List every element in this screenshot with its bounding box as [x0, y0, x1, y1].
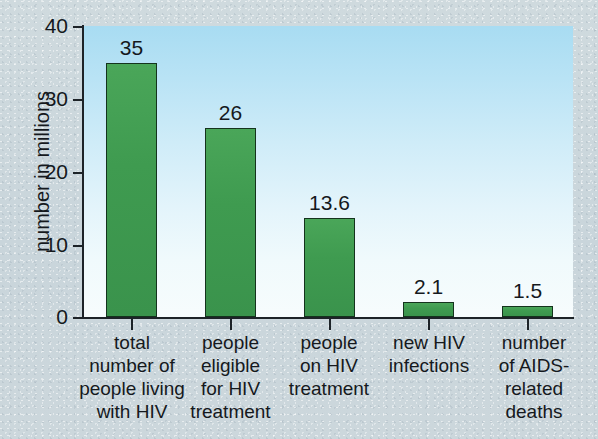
y-tick-10: [73, 245, 83, 247]
bar-value-5: 1.5: [502, 279, 553, 303]
category-label-2-line-4: treatment: [162, 400, 299, 423]
category-label-4-line-1: new HIV: [372, 331, 486, 354]
bar-value-3: 13.6: [296, 191, 363, 215]
y-tick-label-40: 40: [28, 14, 68, 38]
category-label-5-line-4: deaths: [479, 400, 589, 423]
x-tick-1: [131, 319, 133, 330]
category-label-4: new HIV infections: [372, 331, 486, 377]
y-tick-label-0: 0: [28, 305, 68, 329]
bar-people-on-hiv-treatment[interactable]: [304, 218, 355, 317]
x-tick-2: [230, 319, 232, 330]
x-tick-4: [428, 319, 430, 330]
bar-value-4: 2.1: [403, 275, 454, 299]
category-label-5: number of AIDS- related deaths: [479, 331, 589, 423]
bar-value-2: 26: [205, 101, 256, 125]
category-label-3-line-2: on HIV: [272, 354, 386, 377]
y-tick-30: [73, 99, 83, 101]
chart-page: 40 30 20 10 0 number in millions 35 26 1…: [0, 0, 598, 439]
category-label-3-line-3: treatment: [272, 377, 386, 400]
category-label-5-line-1: number: [479, 331, 589, 354]
bar-people-eligible-for-hiv-treatment[interactable]: [205, 128, 256, 317]
category-label-4-line-2: infections: [372, 354, 486, 377]
y-tick-20: [73, 172, 83, 174]
bar-value-1: 35: [106, 36, 157, 60]
category-label-3-line-1: people: [272, 331, 386, 354]
bar-total-people-living-with-hiv[interactable]: [106, 63, 157, 317]
category-label-5-line-3: related: [479, 377, 589, 400]
y-axis-title: number in millions: [31, 47, 54, 297]
x-axis-line: [82, 317, 574, 319]
bar-new-hiv-infections[interactable]: [403, 302, 454, 317]
x-tick-3: [329, 319, 331, 330]
x-tick-5: [527, 319, 529, 330]
y-tick-0: [73, 317, 83, 319]
bar-number-of-aids-related-deaths[interactable]: [502, 306, 553, 317]
category-label-5-line-2: of AIDS-: [479, 354, 589, 377]
y-tick-40: [73, 26, 83, 28]
category-label-3: people on HIV treatment: [272, 331, 386, 400]
